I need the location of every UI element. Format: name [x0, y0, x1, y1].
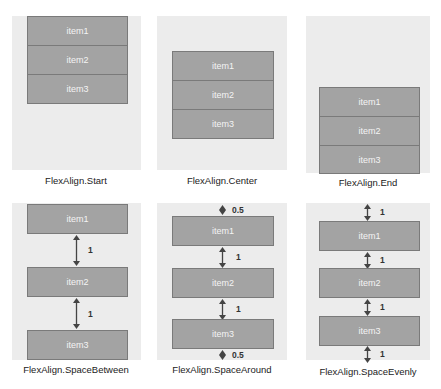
double-arrow-icon	[218, 205, 227, 215]
gap-label: 1	[236, 252, 241, 262]
item-2: item2	[172, 268, 274, 298]
double-arrow-icon	[363, 252, 372, 269]
cutoff-header-text	[30, 0, 240, 3]
item-1: item1	[319, 221, 420, 251]
item-3: item3	[172, 109, 274, 139]
caption-flexalign-spaceevenly: FlexAlign.SpaceEvenly	[295, 366, 441, 377]
double-arrow-icon	[218, 299, 227, 320]
gap-label: 1	[380, 302, 385, 312]
gap-label: 1	[380, 207, 385, 217]
gap-label: 1	[380, 255, 385, 265]
item-2: item2	[172, 80, 274, 110]
gap-label: 1	[88, 245, 93, 255]
caption-flexalign-spacearound: FlexAlign.SpaceAround	[149, 364, 295, 375]
item-2: item2	[319, 116, 420, 146]
item-3: item3	[172, 319, 274, 349]
double-arrow-icon	[363, 204, 372, 221]
gap-label: 0.5	[232, 205, 244, 215]
double-arrow-icon	[363, 346, 372, 363]
item-1: item1	[172, 51, 274, 81]
double-arrow-icon	[72, 235, 81, 266]
double-arrow-icon	[72, 298, 81, 329]
double-arrow-icon	[363, 299, 372, 316]
item-1: item1	[172, 216, 274, 246]
caption-flexalign-end: FlexAlign.End	[295, 177, 441, 188]
item-2: item2	[27, 45, 128, 75]
item-1: item1	[27, 204, 128, 234]
double-arrow-icon	[218, 247, 227, 268]
gap-label: 0.5	[232, 350, 244, 360]
item-2: item2	[319, 268, 420, 298]
item-3: item3	[319, 145, 420, 174]
item-3: item3	[27, 330, 128, 360]
gap-label: 1	[88, 309, 93, 319]
caption-flexalign-spacebetween: FlexAlign.SpaceBetween	[3, 364, 149, 375]
gap-label: 1	[236, 304, 241, 314]
item-3: item3	[27, 74, 128, 104]
gap-label: 1	[380, 349, 385, 359]
item-2: item2	[27, 267, 128, 297]
item-3: item3	[319, 316, 420, 346]
item-1: item1	[27, 16, 128, 46]
caption-flexalign-start: FlexAlign.Start	[3, 175, 149, 186]
item-1: item1	[319, 87, 420, 117]
caption-flexalign-center: FlexAlign.Center	[149, 175, 295, 186]
double-arrow-icon	[218, 350, 227, 360]
